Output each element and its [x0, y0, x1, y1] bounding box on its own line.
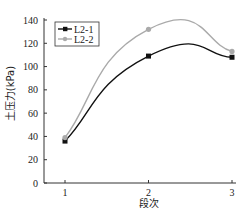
y-tick-label: 60 [28, 108, 38, 119]
x-tick-label: 3 [230, 187, 235, 198]
data-point-square [230, 55, 235, 60]
legend-marker-square [63, 27, 67, 31]
x-tick-label: 1 [63, 187, 68, 198]
x-tick-label: 2 [146, 187, 151, 198]
y-tick-label: 40 [28, 131, 38, 142]
legend-marker-circle [63, 37, 67, 41]
y-tick-label: 120 [23, 38, 38, 49]
data-point-circle [62, 135, 67, 140]
y-tick-label: 80 [28, 84, 38, 95]
data-point-circle [229, 49, 234, 54]
x-axis-label: 段次 [139, 197, 159, 209]
y-tick-label: 140 [23, 15, 38, 26]
axes: 020406080100120140123段次土压力(kPa) [4, 15, 236, 210]
legend: L2-1L2-2 [55, 22, 99, 46]
y-tick-label: 0 [33, 178, 38, 189]
y-tick-label: 20 [28, 154, 38, 165]
line-chart: 020406080100120140123段次土压力(kPa) L2-1L2-2 [0, 0, 247, 220]
data-point-square [146, 54, 151, 59]
y-tick-label: 100 [23, 61, 38, 72]
legend-label: L2-2 [74, 34, 93, 45]
data-point-circle [146, 27, 151, 32]
y-axis-label: 土压力(kPa) [4, 66, 16, 121]
